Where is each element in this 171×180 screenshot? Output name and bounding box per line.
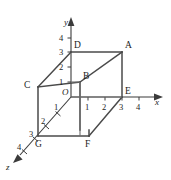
- z-axis-label: z: [5, 162, 10, 172]
- vertex-label-G: G: [35, 139, 42, 149]
- y-axis-arrowhead: [68, 17, 75, 26]
- vertex-label-A: A: [125, 40, 132, 50]
- z-tick-label-4: 4: [17, 142, 22, 152]
- vertex-label-F: F: [85, 139, 90, 149]
- origin-label: O: [62, 87, 69, 97]
- x-axis-label: x: [154, 97, 159, 107]
- y-tick-label-2: 2: [59, 62, 63, 72]
- diagram-canvas: A B C D E F G O y x z 4 3 2 1 1 2 3 4 1 …: [0, 0, 171, 180]
- x-tick-label-2: 2: [102, 102, 106, 112]
- z-axis-arrowhead: [13, 154, 23, 163]
- edge-C-D: [38, 52, 71, 87]
- y-tick-label-4: 4: [59, 33, 64, 43]
- z-axis: [13, 97, 71, 163]
- y-axis-label: y: [63, 17, 68, 27]
- y-axis: [68, 17, 75, 97]
- vertex-label-D: D: [74, 40, 81, 50]
- x-tick-label-3: 3: [119, 102, 123, 112]
- figure-3d-coordinate-box: A B C D E F G O y x z 4 3 2 1 1 2 3 4 1 …: [0, 0, 171, 180]
- y-tick-label-1: 1: [59, 77, 63, 87]
- vertex-label-E: E: [125, 86, 131, 96]
- z-tick-label-3: 3: [29, 129, 33, 139]
- x-tick-label-4: 4: [136, 102, 141, 112]
- vertex-label-C: C: [24, 80, 30, 90]
- z-tick-label-2: 2: [41, 116, 45, 126]
- vertex-label-B: B: [83, 71, 89, 81]
- y-tick-label-3: 3: [59, 47, 63, 57]
- z-tick-label-1: 1: [54, 102, 58, 112]
- box-edges: [38, 52, 122, 136]
- x-tick-label-1: 1: [85, 102, 89, 112]
